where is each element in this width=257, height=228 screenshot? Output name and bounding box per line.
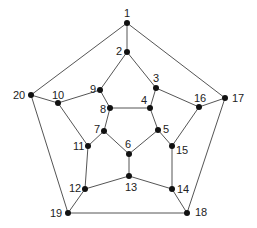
node-label-16: 16	[194, 92, 206, 104]
node-11	[85, 143, 91, 149]
node-20	[28, 92, 34, 98]
edge-3-4	[150, 88, 156, 108]
node-label-20: 20	[13, 89, 25, 101]
node-label-12: 12	[69, 182, 81, 194]
node-label-15: 15	[176, 144, 188, 156]
node-1	[124, 20, 130, 26]
edge-1-20	[31, 23, 127, 95]
node-label-13: 13	[125, 181, 137, 193]
node-label-14: 14	[177, 183, 189, 195]
node-label-6: 6	[125, 138, 131, 150]
edge-2-3	[127, 52, 156, 88]
graph-diagram: 1234567891011121314151617181920	[0, 0, 257, 228]
node-label-19: 19	[50, 207, 62, 219]
node-label-4: 4	[141, 94, 147, 106]
node-13	[126, 173, 132, 179]
edge-15-16	[172, 107, 199, 146]
node-9	[97, 87, 103, 93]
node-4	[147, 105, 153, 111]
node-label-5: 5	[163, 123, 169, 135]
node-3	[153, 85, 159, 91]
node-label-18: 18	[195, 206, 207, 218]
edge-5-6	[129, 130, 158, 154]
node-19	[65, 210, 71, 216]
node-6	[126, 151, 132, 157]
node-label-9: 9	[90, 83, 96, 95]
node-label-2: 2	[116, 45, 122, 57]
node-7	[101, 128, 107, 134]
node-label-11: 11	[73, 140, 84, 152]
node-15	[169, 143, 175, 149]
node-label-8: 8	[100, 103, 106, 115]
node-18	[184, 210, 190, 216]
node-12	[82, 186, 88, 192]
edge-12-13	[85, 176, 129, 189]
edge-11-12	[85, 146, 88, 189]
node-5	[155, 127, 161, 133]
node-label-3: 3	[153, 72, 159, 84]
node-label-1: 1	[124, 7, 130, 19]
edge-1-17	[127, 23, 225, 98]
node-17	[222, 95, 228, 101]
node-label-7: 7	[94, 123, 100, 135]
graph-canvas: 1234567891011121314151617181920	[0, 0, 257, 228]
labels-layer: 1234567891011121314151617181920	[13, 7, 244, 219]
node-16	[196, 104, 202, 110]
edge-3-16	[156, 88, 199, 107]
node-label-10: 10	[52, 89, 64, 101]
edge-2-9	[100, 52, 127, 90]
node-label-17: 17	[232, 92, 244, 104]
node-2	[124, 49, 130, 55]
edge-4-5	[150, 108, 158, 130]
edge-19-20	[31, 95, 68, 213]
node-14	[169, 186, 175, 192]
node-8	[107, 105, 113, 111]
